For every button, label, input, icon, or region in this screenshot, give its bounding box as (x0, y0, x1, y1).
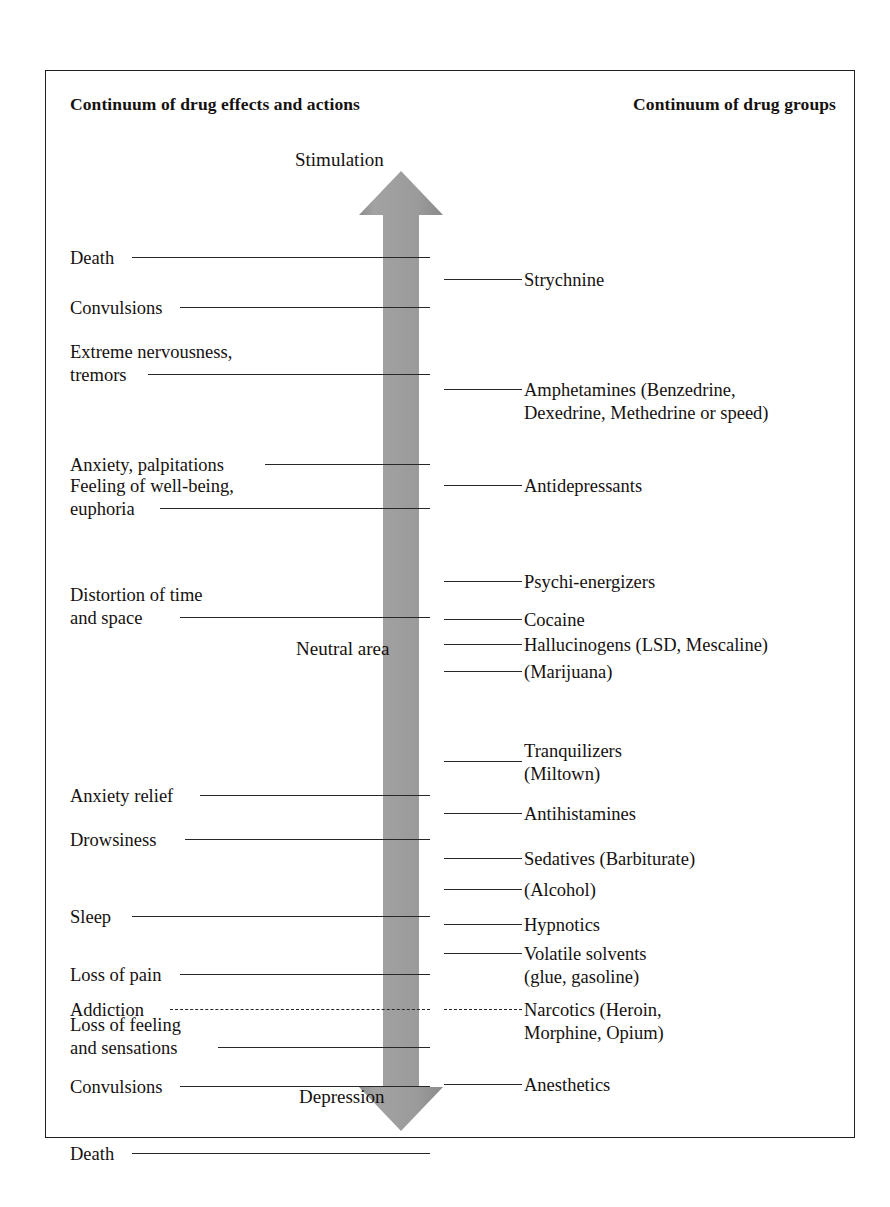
effect-entry: Death (70, 1143, 430, 1166)
leader-line (148, 374, 430, 375)
group-entry: Cocaine (444, 609, 844, 632)
effect-entry: Feeling of well-being, euphoria (70, 475, 430, 522)
effect-entry: Sleep (70, 906, 430, 929)
effect-entry: Loss of pain (70, 964, 430, 987)
group-label: (Alcohol) (524, 879, 844, 902)
leader-line (444, 279, 522, 280)
effect-label: Sleep (70, 906, 430, 929)
leader-line (265, 464, 430, 465)
group-label: Psychi-energizers (524, 571, 844, 594)
effect-label: Death (70, 1143, 430, 1166)
effect-label: Feeling of well-being, euphoria (70, 475, 430, 522)
group-label: Anesthetics (524, 1074, 844, 1097)
group-label: (Marijuana) (524, 661, 844, 684)
leader-line (444, 889, 522, 890)
effect-label: Anxiety, palpitations (70, 454, 430, 477)
effect-label: Anxiety relief (70, 785, 430, 808)
leader-line (444, 644, 522, 645)
effect-label: Loss of pain (70, 964, 430, 987)
leader-line (444, 953, 522, 954)
leader-line (185, 839, 430, 840)
group-label: Cocaine (524, 609, 844, 632)
effect-label: Distortion of time and space (70, 584, 430, 631)
group-entry: Hallucinogens (LSD, Mescaline) (444, 634, 844, 657)
effect-label: Drowsiness (70, 829, 430, 852)
leader-line (132, 257, 430, 258)
leader-line (132, 916, 430, 917)
leader-line (444, 619, 522, 620)
group-entry-narcotics: Narcotics (Heroin, Morphine, Opium) (444, 999, 844, 1046)
effect-label: Convulsions (70, 297, 430, 320)
group-label: Amphetamines (Benzedrine, Dexedrine, Met… (524, 379, 844, 426)
leader-line (160, 508, 430, 509)
pole-label-stimulation: Stimulation (295, 149, 384, 171)
group-label: Sedatives (Barbiturate) (524, 848, 844, 871)
group-entry: Antihistamines (444, 803, 844, 826)
column-header-effects: Continuum of drug effects and actions (70, 93, 360, 116)
column-header-groups: Continuum of drug groups (633, 93, 836, 116)
effect-entry: Anxiety relief (70, 785, 430, 808)
group-entry: Antidepressants (444, 475, 844, 498)
group-entry: Hypnotics (444, 914, 844, 937)
group-label: Narcotics (Heroin, Morphine, Opium) (524, 999, 844, 1046)
leader-line (444, 485, 522, 486)
group-entry: Volatile solvents (glue, gasoline) (444, 943, 844, 990)
leader-line (180, 307, 430, 308)
effect-entry: Convulsions (70, 297, 430, 320)
leader-line-dashed (170, 1009, 430, 1010)
group-label: Volatile solvents (glue, gasoline) (524, 943, 844, 990)
leader-line (444, 581, 522, 582)
group-entry: (Alcohol) (444, 879, 844, 902)
effect-entry: Distortion of time and space (70, 584, 430, 631)
figure-frame: Continuum of drug effects and actions Co… (45, 70, 855, 1138)
leader-line (444, 389, 522, 390)
leader-line (444, 924, 522, 925)
effect-entry: Loss of feeling and sensations (70, 1014, 430, 1061)
effect-entry: Drowsiness (70, 829, 430, 852)
leader-line (132, 1153, 430, 1154)
effect-label: Convulsions (70, 1076, 430, 1099)
leader-line (444, 858, 522, 859)
leader-line (444, 1084, 522, 1085)
group-label: Strychnine (524, 269, 844, 292)
group-entry: Strychnine (444, 269, 844, 292)
group-entry: Amphetamines (Benzedrine, Dexedrine, Met… (444, 379, 844, 426)
effect-label: Death (70, 247, 430, 270)
leader-line (180, 974, 430, 975)
group-label: Hypnotics (524, 914, 844, 937)
leader-line (200, 795, 430, 796)
group-label: Antihistamines (524, 803, 844, 826)
effect-entry: Death (70, 247, 430, 270)
group-entry: (Marijuana) (444, 661, 844, 684)
effect-entry: Extreme nervousness, tremors (70, 341, 430, 388)
group-entry: Sedatives (Barbiturate) (444, 848, 844, 871)
leader-line (444, 671, 522, 672)
leader-line (444, 813, 522, 814)
leader-line (180, 617, 430, 618)
effect-label: Loss of feeling and sensations (70, 1014, 430, 1061)
leader-line (444, 761, 522, 762)
effect-entry: Anxiety, palpitations (70, 454, 430, 477)
leader-line-dashed (444, 1009, 522, 1010)
group-label: Hallucinogens (LSD, Mescaline) (524, 634, 844, 657)
effect-entry: Convulsions (70, 1076, 430, 1099)
pole-label-neutral-area: Neutral area (296, 638, 389, 660)
group-entry: Tranquilizers (Miltown) (444, 740, 844, 787)
group-label: Tranquilizers (Miltown) (524, 740, 844, 787)
leader-line (180, 1086, 430, 1087)
leader-line (218, 1047, 430, 1048)
group-entry: Psychi-energizers (444, 571, 844, 594)
group-entry: Anesthetics (444, 1074, 844, 1097)
effect-label: Extreme nervousness, tremors (70, 341, 430, 388)
group-label: Antidepressants (524, 475, 844, 498)
